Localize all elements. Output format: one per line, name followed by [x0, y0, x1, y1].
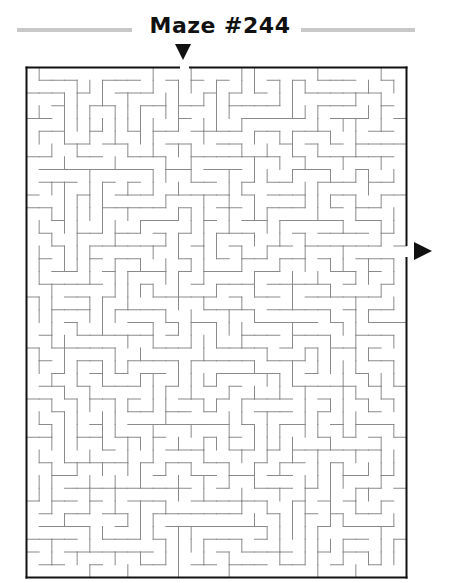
- maze-grid[interactable]: [0, 0, 456, 583]
- maze-walls: [27, 68, 407, 578]
